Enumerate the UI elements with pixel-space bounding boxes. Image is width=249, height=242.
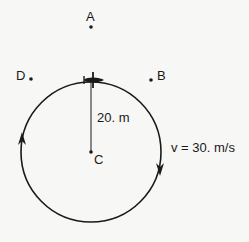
point-c-dot xyxy=(89,150,93,154)
airplane-icon xyxy=(84,72,104,88)
circular-motion-diagram: A D B C 20. m v = 30. m/s xyxy=(0,0,249,242)
point-b-dot xyxy=(149,78,153,82)
velocity-label: v = 30. m/s xyxy=(171,140,235,155)
label-a: A xyxy=(86,9,95,24)
point-a-dot xyxy=(89,25,93,29)
radius-label: 20. m xyxy=(97,110,130,125)
label-b: B xyxy=(157,68,166,83)
label-d: D xyxy=(16,68,25,83)
point-d-dot xyxy=(29,77,33,81)
label-c: C xyxy=(94,152,103,167)
